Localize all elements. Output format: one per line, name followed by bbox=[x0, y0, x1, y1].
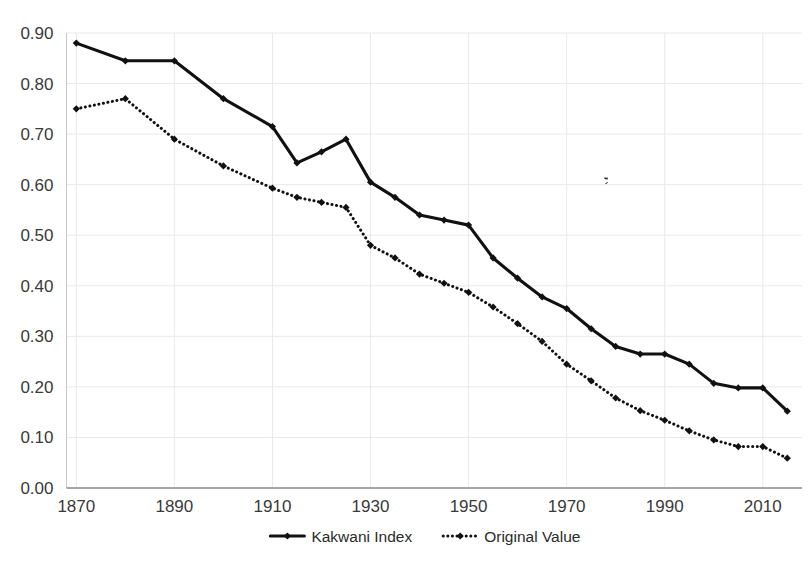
x-tick-label: 1990 bbox=[646, 497, 684, 516]
x-tick-label: 1910 bbox=[254, 497, 292, 516]
scan-speck bbox=[604, 178, 608, 180]
legend-marker bbox=[284, 532, 291, 539]
data-point-marker bbox=[637, 350, 644, 357]
x-tick-label: 1950 bbox=[450, 497, 488, 516]
data-point-marker bbox=[735, 443, 742, 450]
data-point-marker bbox=[661, 417, 668, 424]
x-tick-label: 1930 bbox=[352, 497, 390, 516]
x-tick-label: 1870 bbox=[57, 497, 95, 516]
chart-legend: Kakwani IndexOriginal Value bbox=[270, 528, 580, 545]
series-solid bbox=[73, 40, 791, 415]
data-series-layer bbox=[73, 40, 791, 462]
y-axis-tick-labels: 0.000.100.200.300.400.500.600.700.800.90 bbox=[20, 24, 53, 498]
chart-figure: 0.000.100.200.300.400.500.600.700.800.90… bbox=[0, 0, 812, 561]
data-point-marker bbox=[122, 95, 129, 102]
legend-marker bbox=[457, 532, 464, 539]
legend-item[interactable]: Original Value bbox=[443, 528, 580, 545]
y-tick-label: 0.10 bbox=[20, 428, 53, 447]
axis-spines bbox=[67, 33, 803, 488]
data-point-marker bbox=[73, 105, 80, 112]
series-dotted bbox=[73, 95, 791, 462]
legend-label: Kakwani Index bbox=[311, 528, 412, 545]
legend-item[interactable]: Kakwani Index bbox=[270, 528, 412, 545]
y-tick-label: 0.60 bbox=[20, 176, 53, 195]
y-tick-label: 0.00 bbox=[20, 479, 53, 498]
x-axis-tick-labels: 18701890191019301950197019902010 bbox=[57, 497, 781, 516]
data-point-marker bbox=[784, 455, 791, 462]
data-point-marker bbox=[318, 199, 325, 206]
data-point-marker bbox=[440, 216, 447, 223]
data-point-marker bbox=[637, 407, 644, 414]
y-tick-label: 0.80 bbox=[20, 75, 53, 94]
y-tick-label: 0.70 bbox=[20, 125, 53, 144]
data-point-marker bbox=[293, 194, 300, 201]
series-line bbox=[76, 43, 787, 411]
y-tick-label: 0.40 bbox=[20, 277, 53, 296]
data-point-marker bbox=[735, 384, 742, 391]
scan-artifact bbox=[604, 178, 608, 185]
line-chart-svg: 0.000.100.200.300.400.500.600.700.800.90… bbox=[0, 0, 812, 561]
gridlines bbox=[67, 33, 803, 488]
x-tick-label: 1970 bbox=[548, 497, 586, 516]
y-tick-label: 0.90 bbox=[20, 24, 53, 43]
y-tick-label: 0.30 bbox=[20, 327, 53, 346]
series-line bbox=[76, 99, 787, 458]
y-tick-label: 0.50 bbox=[20, 226, 53, 245]
legend-label: Original Value bbox=[484, 528, 580, 545]
x-tick-label: 2010 bbox=[744, 497, 782, 516]
x-tick-label: 1890 bbox=[155, 497, 193, 516]
y-tick-label: 0.20 bbox=[20, 378, 53, 397]
scan-speck bbox=[605, 182, 608, 184]
